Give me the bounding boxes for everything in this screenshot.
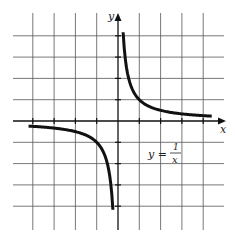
equation-label: y = 1 x [147, 142, 181, 165]
hyperbola-branch-negative [29, 126, 113, 210]
equation-numerator: 1 [173, 142, 179, 152]
hyperbola-branch-positive [123, 32, 212, 116]
graph-canvas: x y y = 1 x [0, 0, 235, 239]
x-axis-label: x [220, 123, 227, 136]
equation-lhs: y = [147, 148, 167, 161]
equation-denominator: x [172, 154, 178, 165]
y-axis-label: y [107, 10, 115, 23]
y-axis-arrow-icon [115, 13, 122, 21]
